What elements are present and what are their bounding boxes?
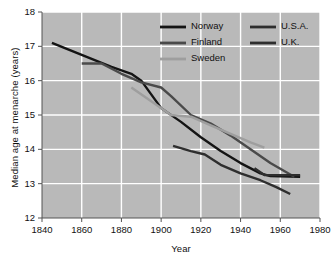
x-tick-label: 1840 <box>22 224 62 235</box>
legend-label-norway: Norway <box>191 20 223 31</box>
x-axis-title: Year <box>42 243 320 254</box>
y-tick-label: 13 <box>13 178 35 189</box>
x-tick-label: 1980 <box>300 224 333 235</box>
x-tick-label: 1960 <box>260 224 300 235</box>
legend-label-sweden: Sweden <box>191 52 225 63</box>
y-tick-label: 18 <box>13 6 35 17</box>
y-tick-label: 15 <box>13 109 35 120</box>
legend-label-uk: U.K. <box>281 36 299 47</box>
y-tick-label: 14 <box>13 143 35 154</box>
y-tick-label: 16 <box>13 75 35 86</box>
legend-label-usa: U.S.A. <box>281 20 308 31</box>
x-tick-label: 1880 <box>101 224 141 235</box>
x-tick-label: 1920 <box>181 224 221 235</box>
y-tick-label: 17 <box>13 40 35 51</box>
x-tick-label: 1900 <box>141 224 181 235</box>
y-tick-label: 12 <box>13 212 35 223</box>
x-tick-label: 1860 <box>62 224 102 235</box>
x-tick-label: 1940 <box>221 224 261 235</box>
legend-label-finland: Finland <box>191 36 222 47</box>
chart-figure: Median age at menarche (years) Year 1213… <box>0 0 333 260</box>
